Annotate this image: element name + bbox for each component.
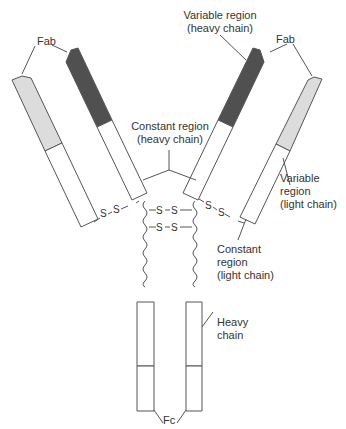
s-atom: S (156, 222, 163, 233)
s-atom: S (171, 205, 178, 216)
fab-right-label: Fab (276, 33, 295, 46)
fc-right-upper (186, 302, 202, 366)
constant-light-label-line1: Constant (217, 243, 274, 256)
s-atom: S (171, 222, 178, 233)
variable-heavy-label: Variable region (heavy chain) (170, 9, 270, 35)
s-atom: S (156, 205, 163, 216)
variable-light-label-line1: Variable (280, 172, 337, 185)
leader-lines (22, 35, 312, 423)
hinge-region (143, 201, 197, 287)
antibody-svg: S S S S S S S S (0, 0, 346, 429)
variable-light-label: Variable region (light chain) (280, 172, 337, 211)
left-hinge (143, 201, 147, 287)
fc-left-upper (137, 302, 154, 366)
fc-region (137, 302, 202, 411)
s-atom: S (205, 200, 212, 211)
constant-heavy-pointer (143, 150, 196, 180)
right-heavy-chain-variable (218, 48, 264, 127)
s-atom: S (100, 208, 107, 219)
right-light-chain-variable (276, 77, 322, 151)
fc-label: Fc (163, 414, 175, 427)
left-heavy-chain-variable (66, 48, 112, 127)
variable-light-label-line2: region (280, 185, 337, 198)
fab-left-label: Fab (37, 35, 56, 48)
sulfur-atoms: S S S S S S S S (100, 200, 225, 233)
heavy-chain-label-line2: chain (217, 329, 248, 342)
constant-heavy-label-line1: Constant region (122, 120, 218, 133)
variable-light-label-line3: (light chain) (280, 198, 337, 211)
constant-light-label: Constant region (light chain) (217, 243, 274, 282)
constant-heavy-label: Constant region (heavy chain) (122, 120, 218, 146)
fc-right-lower (186, 366, 202, 411)
s-atom: S (113, 204, 120, 215)
left-light-chain-constant (45, 143, 98, 227)
heavy-chain-label: Heavy chain (217, 316, 248, 342)
heavy-chain-label-line1: Heavy (217, 316, 248, 329)
constant-light-label-line3: (light chain) (217, 269, 274, 282)
variable-heavy-label-line2: (heavy chain) (170, 22, 270, 35)
variable-heavy-label-line1: Variable region (170, 9, 270, 22)
constant-heavy-label-line2: (heavy chain) (122, 133, 218, 146)
constant-light-label-line2: region (217, 256, 274, 269)
left-light-chain-variable (12, 76, 62, 151)
antibody-diagram: S S S S S S S S Fab Variable region (hea… (0, 0, 346, 429)
s-atom: S (218, 207, 225, 218)
fc-left-lower (137, 366, 154, 411)
right-hinge (193, 201, 197, 287)
